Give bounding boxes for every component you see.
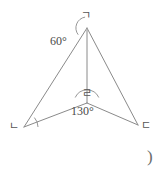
segment-a-c (87, 28, 138, 125)
angle-label-apex: 60° (50, 35, 67, 47)
stray-parenthesis-mark: ) (147, 148, 153, 165)
angle-label-interior: 130° (71, 105, 94, 117)
segment-c-d (87, 103, 138, 125)
vertex-label-interior: ㄹ (82, 88, 92, 99)
vertex-label-apex: ㄱ (81, 10, 91, 21)
vertex-label-bottom-left: ㄴ (9, 121, 19, 132)
vertex-label-bottom-right: ㄷ (141, 120, 151, 131)
geometry-figure-canvas: ㄱ ㄴ ㄷ ㄹ 60° 130° ) (0, 0, 168, 174)
